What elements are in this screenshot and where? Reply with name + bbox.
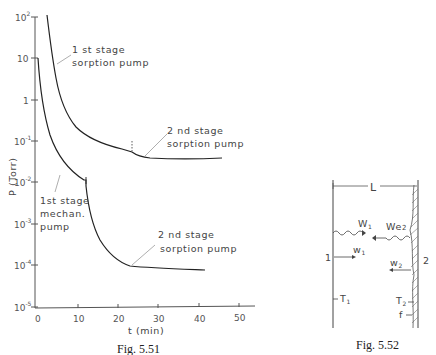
svg-text:30: 30	[153, 314, 165, 324]
figure-canvas: 102 10 1 10-1 10-2 10-3 10-4 10-5 P (Tor…	[0, 0, 436, 355]
label-T1: T1	[339, 293, 351, 305]
svg-text:50: 50	[234, 313, 246, 323]
radiation-w1-arrow	[333, 231, 363, 235]
annotation-1st-stage-mechan-c: pump	[40, 221, 70, 232]
ytick-1: 10	[17, 54, 29, 64]
label-f: f	[399, 309, 403, 320]
fig-5-51: 102 10 1 10-1 10-2 10-3 10-4 10-5 P (Tor…	[7, 10, 255, 355]
label-We2: We2	[386, 221, 407, 232]
label-surface-2: 2	[423, 255, 430, 266]
x-axis-label: t (min)	[128, 325, 164, 336]
annotation-2nd-stage-lower-a: 2 nd stage	[158, 229, 215, 240]
ytick-2: 1	[23, 96, 29, 106]
ytick-3: 10-1	[14, 134, 32, 147]
radiation-we2-arrow	[376, 236, 410, 240]
x-tick-labels: 0 10 20 30 40 50	[35, 313, 246, 324]
svg-text:0: 0	[35, 314, 41, 324]
label-surface-1: 1	[325, 252, 332, 263]
caption-fig-5-52: Fig. 5.52	[356, 338, 399, 352]
label-T2: T2	[395, 295, 407, 307]
dimension-L: L	[370, 181, 377, 194]
ytick-7: 10-5	[14, 300, 32, 313]
ytick-0: 102	[15, 10, 30, 23]
frost-layer-edge	[410, 185, 414, 328]
annotation-2nd-stage-upper-b: sorption pump	[167, 138, 244, 149]
hatching	[410, 189, 418, 323]
annotation-1st-stage-sorption-a: 1 st stage	[72, 44, 125, 55]
annotation-1st-stage-mechan-b: mechan.	[40, 208, 85, 219]
ytick-5: 10-3	[14, 217, 32, 230]
svg-text:20: 20	[113, 314, 125, 324]
caption-fig-5-51: Fig. 5.51	[117, 342, 160, 355]
y-axis-label: P (Torr)	[7, 157, 18, 196]
fig-5-52: L W1 We2 w1 1 w2 2 T1 T2 f Fig. 5.52	[325, 180, 430, 352]
svg-text:40: 40	[194, 314, 206, 324]
label-W1: W1	[358, 218, 372, 230]
x-axis	[35, 306, 255, 308]
label-w2: w2	[390, 257, 403, 269]
svg-text:10: 10	[73, 314, 85, 324]
annotation-1st-stage-mechan-a: 1st stage	[40, 195, 90, 206]
annotation-2nd-stage-upper-a: 2 nd stage	[167, 125, 224, 136]
ytick-6: 10-4	[14, 258, 32, 271]
annotation-2nd-stage-lower-b: sorption pump	[160, 243, 237, 254]
label-w1: w1	[353, 244, 366, 256]
annotation-1st-stage-sorption-b: sorption pump	[72, 57, 149, 68]
